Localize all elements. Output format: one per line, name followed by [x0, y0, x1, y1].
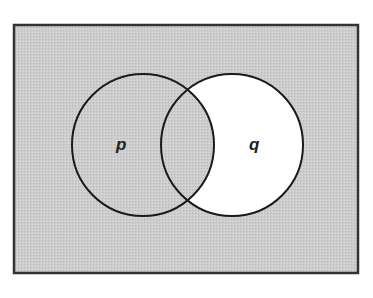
venn-diagram: p q [0, 0, 373, 298]
set-p-label: p [115, 135, 126, 154]
set-q-label: q [249, 135, 260, 154]
